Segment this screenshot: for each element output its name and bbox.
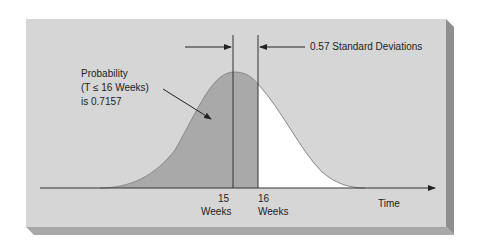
panel-edge-bottom [26,227,454,235]
tick-15-unit: Weeks [201,206,231,217]
probability-label-line1: Probability [81,68,128,79]
tick-16-unit: Weeks [258,206,288,217]
x-axis-label: Time [378,198,400,209]
probability-label-line2: (T ≤ 16 Weeks) [81,82,149,93]
std-dev-label: 0.57 Standard Deviations [310,41,422,52]
tick-16-number: 16 [258,193,270,204]
normal-distribution-chart: Probability (T ≤ 16 Weeks) is 0.7157 0.5… [0,0,480,249]
panel-edge-right [446,19,454,235]
tick-15-number: 15 [218,193,230,204]
probability-label-line3: is 0.7157 [81,96,122,107]
